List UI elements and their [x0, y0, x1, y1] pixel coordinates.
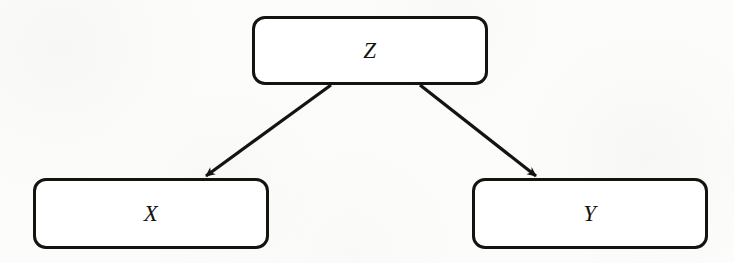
- edge-z-to-y: [420, 85, 536, 176]
- edge-z-to-x: [206, 85, 331, 176]
- node-x-label: X: [144, 202, 159, 225]
- node-z-label: Z: [363, 39, 376, 62]
- node-y[interactable]: Y: [472, 178, 708, 249]
- node-x[interactable]: X: [33, 178, 269, 249]
- node-y-label: Y: [583, 202, 596, 225]
- node-z[interactable]: Z: [252, 16, 488, 85]
- causal-diagram-figure: Z X Y: [0, 0, 734, 263]
